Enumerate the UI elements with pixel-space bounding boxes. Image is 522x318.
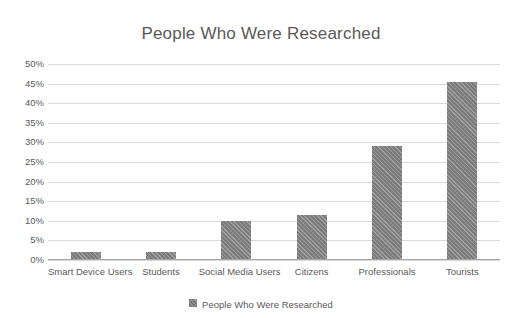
legend-label: People Who Were Researched: [202, 299, 333, 310]
y-axis-tick-label: 50%: [4, 59, 44, 69]
x-axis-tick-label: Smart Device Users: [48, 266, 123, 277]
x-axis-line: [48, 259, 500, 260]
gridline: [48, 201, 500, 202]
x-axis-tick-label: Social Media Users: [199, 266, 274, 277]
gridline: [48, 142, 500, 143]
y-axis-tick-label: 10%: [4, 216, 44, 226]
gridline: [48, 64, 500, 65]
x-axis-tick-label: Citizens: [274, 266, 349, 277]
gridline: [48, 103, 500, 104]
y-axis-tick-label: 35%: [4, 118, 44, 128]
y-axis-tick-label: 15%: [4, 196, 44, 206]
x-axis-tick-label: Tourists: [425, 266, 500, 277]
y-axis-tick-label: 40%: [4, 98, 44, 108]
y-axis-tick-label: 20%: [4, 177, 44, 187]
gridline: [48, 84, 500, 85]
legend-swatch-icon: [189, 299, 197, 307]
y-axis-tick-label: 45%: [4, 79, 44, 89]
gridline: [48, 221, 500, 222]
gridline: [48, 240, 500, 241]
x-axis-tick-label: Students: [123, 266, 198, 277]
gridline: [48, 182, 500, 183]
bar: [297, 215, 327, 260]
bar: [447, 82, 477, 260]
y-axis-tick-label: 30%: [4, 137, 44, 147]
bar: [372, 146, 402, 260]
gridline: [48, 123, 500, 124]
gridline: [48, 162, 500, 163]
y-axis-tick-label: 0%: [4, 255, 44, 265]
x-axis-tick-label: Professionals: [349, 266, 424, 277]
bar: [221, 221, 251, 260]
y-axis-tick-label: 5%: [4, 235, 44, 245]
y-axis-tick-label: 25%: [4, 157, 44, 167]
bar-chart: People Who Were Researched 0%5%10%15%20%…: [0, 0, 522, 318]
plot-area: [48, 64, 500, 260]
y-axis-tick-labels: 0%5%10%15%20%25%30%35%40%45%50%: [0, 64, 44, 260]
chart-title: People Who Were Researched: [0, 24, 522, 44]
chart-legend: People Who Were Researched: [0, 298, 522, 310]
gridline: [48, 260, 500, 261]
